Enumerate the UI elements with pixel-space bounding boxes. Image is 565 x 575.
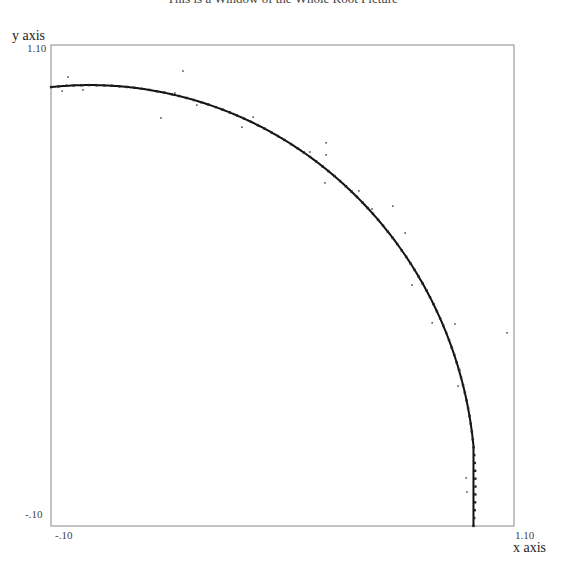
scatter-point: [454, 323, 456, 325]
scatter-point: [324, 182, 326, 184]
scatter-point: [411, 284, 413, 286]
scatter-point: [67, 76, 69, 78]
scatter-point: [457, 385, 459, 387]
scatter-point: [174, 92, 176, 94]
plot-area: [0, 0, 565, 575]
scatter-point: [241, 126, 243, 128]
scatter-point: [160, 117, 162, 119]
scatter-points: [61, 70, 507, 492]
scatter-point: [358, 190, 360, 192]
scatter-point: [465, 477, 467, 479]
scatter-point: [371, 208, 373, 210]
scatter-point: [392, 205, 394, 207]
scatter-point: [325, 142, 327, 144]
scatter-point: [506, 332, 508, 334]
scatter-point: [404, 232, 406, 234]
scatter-point: [196, 104, 198, 106]
scatter-point: [252, 116, 254, 118]
scatter-point: [182, 70, 184, 72]
root-locus-curve: [50, 84, 477, 527]
scatter-point: [325, 154, 327, 156]
plot-frame: [51, 45, 514, 526]
scatter-point: [82, 89, 84, 91]
scatter-point: [309, 151, 311, 153]
scatter-point: [61, 90, 63, 92]
scatter-point: [431, 322, 433, 324]
scatter-point: [466, 491, 468, 493]
scatter-point: [459, 369, 461, 371]
